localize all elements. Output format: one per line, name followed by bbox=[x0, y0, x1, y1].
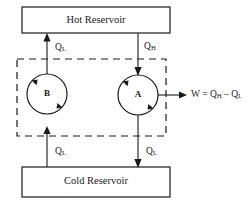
carnot-engine-diagram: Hot Reservoir Cold Reservoir QL QL QH bbox=[0, 0, 250, 204]
engine-a-cycle-arrow-top bbox=[123, 81, 129, 87]
flow-b-bottom-arrowhead bbox=[43, 126, 50, 134]
flow-b-top-arrowhead bbox=[43, 33, 50, 42]
engine-a-label: A bbox=[135, 89, 142, 99]
work-equals: = bbox=[200, 89, 210, 99]
flow-a-top-label: QH bbox=[144, 41, 156, 51]
flow-b-bottom-group: QL bbox=[43, 126, 66, 167]
work-ql-subscript: L bbox=[238, 92, 242, 99]
flow-a-top-subscript: H bbox=[151, 44, 156, 51]
flow-b-top-group: QL bbox=[43, 33, 66, 74]
work-symbol: W bbox=[191, 89, 200, 99]
hot-reservoir-group: Hot Reservoir bbox=[22, 7, 170, 33]
cold-reservoir-group: Cold Reservoir bbox=[22, 167, 170, 197]
flow-b-top-label: QL bbox=[55, 42, 66, 52]
engine-a-group: A bbox=[118, 75, 158, 115]
work-output-arrowhead bbox=[179, 92, 187, 99]
work-minus: – bbox=[222, 89, 232, 99]
engine-b-label: B bbox=[44, 88, 50, 98]
work-output-group: W = QH – QL bbox=[158, 89, 242, 99]
diagram-canvas: Hot Reservoir Cold Reservoir QL QL QH bbox=[0, 0, 250, 204]
cold-reservoir-label: Cold Reservoir bbox=[64, 175, 128, 186]
work-equation-label: W = QH – QL bbox=[191, 89, 242, 99]
flow-a-bottom-group: QL bbox=[134, 115, 157, 168]
flow-a-bottom-label: QL bbox=[146, 146, 157, 156]
flow-a-top-group: QH bbox=[134, 33, 155, 76]
hot-reservoir-label: Hot Reservoir bbox=[66, 14, 126, 25]
flow-b-bottom-label: QL bbox=[55, 146, 66, 156]
flow-a-bottom-subscript: L bbox=[153, 149, 157, 156]
dashed-system-boundary bbox=[17, 59, 166, 136]
engine-b-group: B bbox=[27, 74, 67, 114]
flow-b-top-subscript: L bbox=[62, 45, 66, 52]
flow-b-bottom-subscript: L bbox=[62, 149, 66, 156]
engine-b-cycle-arrow-top bbox=[32, 80, 38, 86]
